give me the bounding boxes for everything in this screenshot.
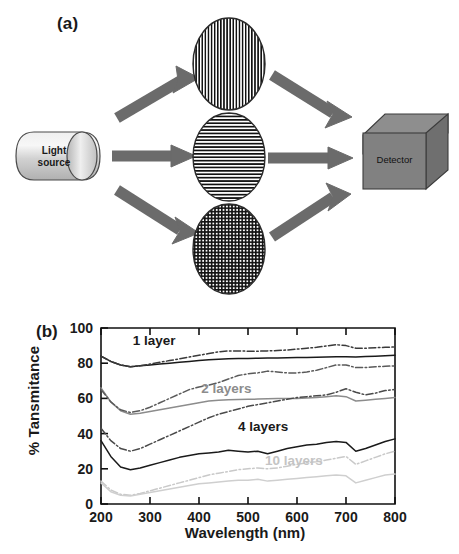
series-line	[101, 451, 395, 495]
panel-b-chart: % Tansmitance Wavelength (nm) 0204060801…	[0, 306, 459, 554]
curve-annotation: 2 layers	[201, 381, 251, 396]
crosshatch-grating-sample	[193, 204, 265, 294]
light-source-line2: source	[38, 157, 71, 168]
horizontal-grating-sample	[193, 113, 265, 201]
detector-cube	[363, 114, 448, 189]
arrow-middle-to-detector	[268, 147, 353, 169]
arrow-source-to-bottom	[117, 190, 199, 244]
plot-frame	[101, 328, 395, 504]
vertical-grating-sample	[193, 18, 265, 110]
light-source-label: Light source	[26, 145, 82, 169]
curve-annotation: 10 layers	[265, 453, 323, 468]
arrow-top-to-detector	[272, 75, 352, 128]
figure-container: (a)	[0, 0, 459, 554]
detector-label: Detector	[363, 154, 426, 165]
series-line	[101, 474, 395, 496]
arrow-source-to-top	[117, 66, 199, 118]
sample-ellipses	[193, 18, 265, 294]
spectrum-plot	[0, 306, 459, 554]
curve-annotation: 4 layers	[238, 419, 288, 434]
panel-a-schematic: (a)	[0, 0, 459, 306]
curve-annotation: 1 layer	[133, 333, 176, 348]
light-source-line1: Light	[42, 145, 66, 156]
series-line	[101, 439, 395, 470]
arrow-source-to-middle	[112, 145, 196, 167]
arrow-bottom-to-detector	[272, 183, 351, 237]
